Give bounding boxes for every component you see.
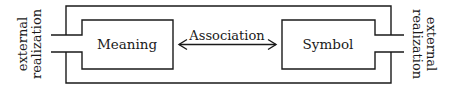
meaning-symbol-diagram: Meaning Symbol Association external real… <box>0 0 453 89</box>
right-external-realization-label: external realization <box>410 9 439 80</box>
right-label-line2: realization <box>410 9 425 80</box>
left-label-line2: realization <box>29 8 44 79</box>
right-label-line1: external <box>424 17 439 71</box>
symbol-label: Symbol <box>303 36 354 52</box>
meaning-label: Meaning <box>97 36 158 52</box>
left-label-line1: external <box>15 17 30 71</box>
association-label: Association <box>188 28 265 43</box>
left-external-realization-label: external realization <box>15 8 44 79</box>
